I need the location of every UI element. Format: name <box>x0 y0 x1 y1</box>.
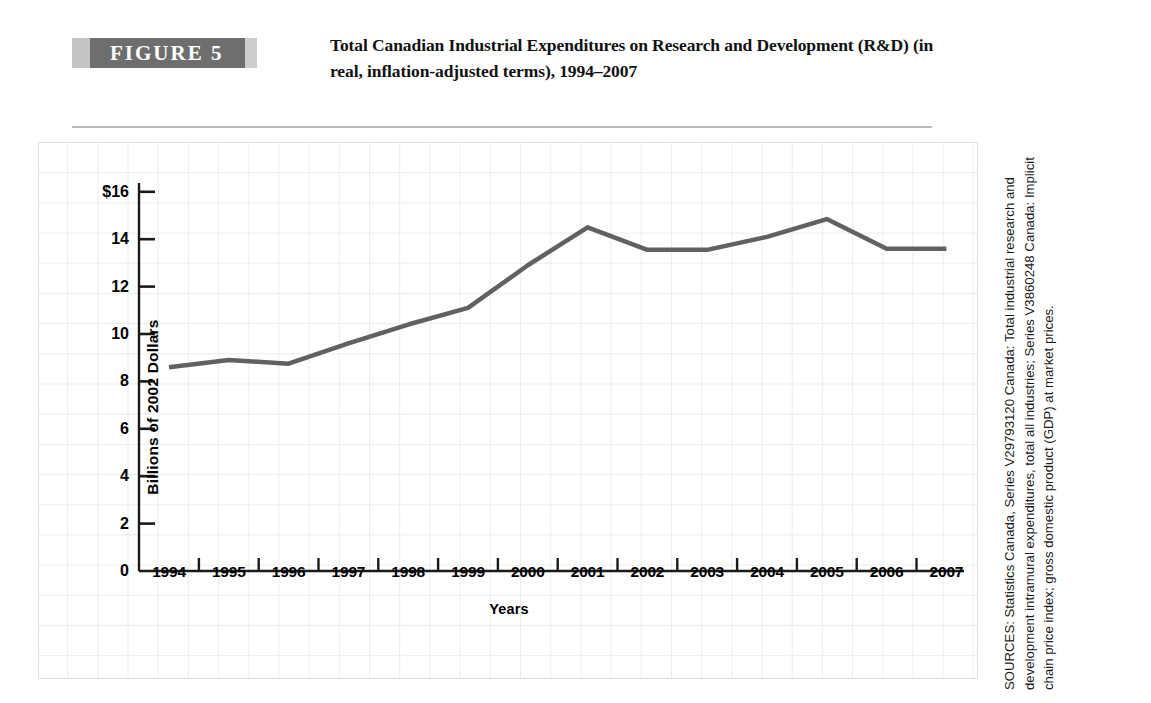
header-divider-rule <box>72 126 932 128</box>
x-tick-label: 1998 <box>378 563 438 581</box>
x-tick-label: 1995 <box>199 563 259 581</box>
x-tick-label: 2006 <box>857 563 917 581</box>
x-axis-title: Years <box>39 601 978 617</box>
x-tick-label: 1994 <box>139 563 199 581</box>
y-tick-label: 12 <box>69 278 129 296</box>
figure-badge-group: FIGURE 5 <box>72 38 257 68</box>
source-note: SOURCES: Statistics Canada, Series V2979… <box>1000 145 1090 690</box>
x-tick-label: 1996 <box>259 563 319 581</box>
y-tick-label: 0 <box>69 562 129 580</box>
y-tick-label: 14 <box>69 230 129 248</box>
y-tick-label: 2 <box>69 515 129 533</box>
figure-header: FIGURE 5 Total Canadian Industrial Expen… <box>0 0 1151 128</box>
chart-plot-svg <box>39 143 978 679</box>
data-series-line <box>169 219 946 367</box>
x-tick-label: 1999 <box>438 563 498 581</box>
figure-number-badge: FIGURE 5 <box>90 38 245 68</box>
x-tick-label: 2007 <box>916 563 976 581</box>
x-tick-label: 2001 <box>558 563 618 581</box>
x-tick-label: 2005 <box>797 563 857 581</box>
figure-title: Total Canadian Industrial Expenditures o… <box>330 33 950 84</box>
x-tick-label: 2002 <box>617 563 677 581</box>
x-tick-label: 1997 <box>318 563 378 581</box>
figure-badge-right-band <box>245 38 257 68</box>
x-tick-label: 2004 <box>737 563 797 581</box>
figure-badge-left-band <box>72 38 90 68</box>
source-note-text: SOURCES: Statistics Canada, Series V2979… <box>1000 145 1059 690</box>
x-tick-label: 2000 <box>498 563 558 581</box>
y-axis-tick-labels: 02468101214$16 <box>59 143 129 679</box>
chart-container: 02468101214$16 1994199519961997199819992… <box>38 142 978 679</box>
y-axis-title: Billions of 2002 Dollars <box>144 287 162 527</box>
y-tick-label: 10 <box>69 325 129 343</box>
y-tick-label: 6 <box>69 420 129 438</box>
x-tick-label: 2003 <box>677 563 737 581</box>
chart-tick-marks <box>139 192 917 571</box>
chart-axes <box>139 183 964 571</box>
y-tick-label: 4 <box>69 467 129 485</box>
y-tick-label: $16 <box>69 183 129 201</box>
y-tick-label: 8 <box>69 372 129 390</box>
